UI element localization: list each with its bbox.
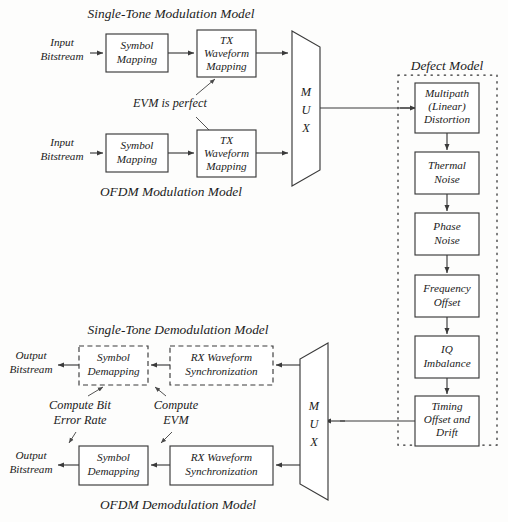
block-defect-phase-noise-line2: Noise [433, 234, 460, 246]
block-defect-multipath-line1: Multipath [424, 87, 470, 99]
leader-evm-to-single-tone-demod [155, 387, 166, 396]
block-tx-waveform-mapping-ofdm-line2: Waveform [204, 147, 249, 159]
block-defect-thermal-noise-line2: Noise [433, 173, 460, 185]
block-rx-waveform-sync-ofdm-line1: RX Waveform [190, 451, 252, 463]
section-title-single-tone-modulation: Single-Tone Modulation Model [88, 6, 255, 21]
output-bitstream-label-single-tone-line1: Output [15, 349, 47, 361]
block-symbol-mapping-single-tone-line1: Symbol [121, 39, 154, 51]
block-defect-frequency-offset-line1: Frequency [422, 282, 470, 294]
input-bitstream-label-ofdm-line1: Input [49, 136, 75, 148]
block-symbol-demapping-ofdm-line1: Symbol [97, 451, 130, 463]
output-bitstream-label-ofdm-line1: Output [15, 449, 47, 461]
input-bitstream-label-ofdm-line2: Bitstream [40, 150, 83, 162]
block-tx-waveform-mapping-single-tone-line2: Waveform [204, 47, 249, 59]
diagram-svg: Single-Tone Modulation Model OFDM Modula… [0, 0, 508, 522]
input-bitstream-label-single-tone-line1: Input [49, 36, 75, 48]
output-bitstream-label-single-tone-line2: Bitstream [9, 363, 52, 375]
block-defect-multipath-line2: (Linear) [428, 100, 466, 113]
block-defect-phase-noise-line1: Phase [432, 220, 460, 232]
mux-modulation-letter-m: M [300, 85, 312, 99]
block-symbol-mapping-ofdm-line2: Mapping [116, 153, 158, 165]
block-tx-waveform-mapping-single-tone-line1: TX [220, 34, 234, 46]
mux-demodulation-letter-u: U [310, 417, 320, 431]
section-title-ofdm-modulation: OFDM Modulation Model [100, 184, 242, 199]
block-symbol-mapping-single-tone-line2: Mapping [116, 53, 158, 65]
note-evm-is-perfect: EVM is perfect [132, 96, 207, 110]
block-symbol-demapping-single-tone-line1: Symbol [97, 351, 130, 363]
block-tx-waveform-mapping-ofdm-line1: TX [220, 134, 234, 146]
output-bitstream-label-ofdm-line2: Bitstream [9, 463, 52, 475]
block-defect-timing-offset-line3: Drift [435, 426, 459, 438]
note-compute-ber-line2: Error Rate [52, 413, 107, 427]
section-title-ofdm-demodulation: OFDM Demodulation Model [100, 497, 256, 512]
block-defect-frequency-offset-line2: Offset [434, 296, 462, 308]
section-title-defect-model: Defect Model [410, 58, 484, 73]
mux-modulation-letter-x: X [301, 121, 310, 135]
block-defect-timing-offset-line1: Timing [431, 400, 462, 412]
block-tx-waveform-mapping-ofdm-line3: Mapping [205, 160, 247, 172]
input-bitstream-label-single-tone-line2: Bitstream [40, 50, 83, 62]
block-symbol-demapping-single-tone-line2: Demapping [86, 365, 140, 377]
block-symbol-mapping-ofdm-line1: Symbol [121, 139, 154, 151]
block-defect-thermal-noise-line1: Thermal [428, 159, 466, 171]
note-compute-evm-line1: Compute [154, 398, 199, 412]
block-rx-waveform-sync-ofdm-line2: Synchronization [185, 465, 258, 477]
block-defect-multipath-line3: Distortion [423, 113, 470, 125]
block-diagram-canvas: Single-Tone Modulation Model OFDM Modula… [0, 0, 508, 522]
leader-evm-to-single-tone [196, 79, 215, 95]
mux-demodulation-letter-m: M [308, 399, 320, 413]
leader-ber-to-ofdm [69, 432, 76, 443]
block-defect-timing-offset-line2: Offset and [424, 413, 471, 425]
block-tx-waveform-mapping-single-tone-line3: Mapping [205, 60, 247, 72]
leader-ber-to-single-tone [88, 387, 103, 396]
mux-modulation-letter-u: U [302, 103, 312, 117]
leader-evm-to-ofdm-demod [161, 432, 172, 443]
block-symbol-demapping-ofdm-line2: Demapping [86, 465, 140, 477]
note-compute-ber-line1: Compute Bit [49, 398, 111, 412]
section-title-single-tone-demodulation: Single-Tone Demodulation Model [87, 322, 268, 337]
note-compute-evm-line2: EVM [162, 413, 189, 427]
block-defect-iq-imbalance-line1: IQ [440, 343, 453, 355]
block-rx-waveform-sync-single-tone-line1: RX Waveform [190, 351, 252, 363]
block-defect-iq-imbalance-line2: Imbalance [422, 357, 470, 369]
mux-demodulation-letter-x: X [309, 435, 318, 449]
block-rx-waveform-sync-single-tone-line2: Synchronization [185, 365, 258, 377]
